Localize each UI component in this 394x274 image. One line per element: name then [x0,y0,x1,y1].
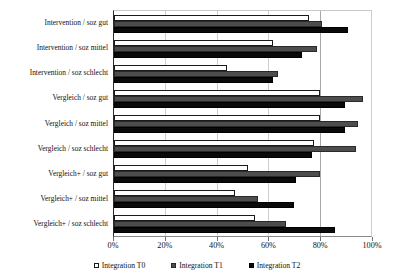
bar-row [114,227,371,233]
x-axis-tick-label: 100% [362,241,381,250]
category-label: Vergleich / soz schlecht [0,136,112,161]
bar-chart: Intervention / soz gutIntervention / soz… [0,0,394,274]
bar-integration-t2 [114,177,296,183]
bar-row [114,177,371,183]
bar-group [114,36,371,61]
category-label: Vergleich / soz mittel [0,111,112,136]
x-axis-tick-labels: 0%20%40%60%80%100% [113,241,372,253]
x-axis-tick-label: 80% [313,241,328,250]
bar-group [114,11,371,36]
bar-group [114,86,371,111]
bar-group [114,186,371,211]
bar-integration-t2 [114,27,348,33]
chart-legend: Integration T0Integration T1Integration … [0,258,394,272]
bar-group [114,111,371,136]
plot-area [113,10,372,237]
bar-group [114,61,371,86]
gray-square-icon [171,263,176,268]
x-axis-tick-label: 40% [209,241,224,250]
category-label: Vergleich+ / soz schlecht [0,212,112,237]
bar-row [114,102,371,108]
gridline [371,11,372,236]
bar-integration-t2 [114,202,294,208]
bar-integration-t2 [114,127,345,133]
bar-integration-t2 [114,227,335,233]
y-axis-category-labels: Intervention / soz gutIntervention / soz… [0,10,112,237]
bar-integration-t2 [114,52,302,58]
legend-item[interactable]: Integration T1 [171,261,223,270]
bar-groups [114,11,371,236]
black-square-icon [249,263,254,268]
category-label: Vergleich+ / soz mittel [0,187,112,212]
legend-label: Integration T0 [102,261,146,270]
bar-group [114,211,371,236]
bar-integration-t2 [114,102,345,108]
legend-item[interactable]: Integration T0 [94,261,146,270]
legend-label: Integration T2 [257,261,301,270]
bar-row [114,152,371,158]
category-label: Vergleich / soz gut [0,86,112,111]
bar-group [114,161,371,186]
bar-group [114,136,371,161]
category-label: Vergleich+ / soz gut [0,161,112,186]
x-axis-tick-label: 20% [157,241,172,250]
legend-item[interactable]: Integration T2 [249,261,301,270]
x-axis-tick-label: 60% [261,241,276,250]
category-label: Intervention / soz schlecht [0,60,112,85]
bar-row [114,27,371,33]
category-label: Intervention / soz gut [0,10,112,35]
bar-row [114,52,371,58]
bar-row [114,127,371,133]
bar-integration-t2 [114,77,273,83]
bar-integration-t2 [114,152,312,158]
category-label: Intervention / soz mittel [0,35,112,60]
white-square-icon [94,263,99,268]
bar-row [114,77,371,83]
legend-label: Integration T1 [179,261,223,270]
bar-row [114,202,371,208]
x-axis-tick-label: 0% [108,241,119,250]
